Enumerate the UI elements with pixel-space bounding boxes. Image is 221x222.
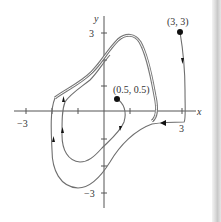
point-label-3-3: (3, 3) (167, 16, 189, 28)
x-axis-label: x (196, 106, 202, 117)
phase-portrait-figure: y x 3 −3 −3 3 (3, 3) (0.5, 0.5) (0, 0, 221, 222)
point-0-5-0-5 (114, 96, 120, 102)
y-axis-label: y (93, 13, 99, 24)
y-tick-label-neg3: −3 (84, 188, 95, 199)
trajectory-from-3-3 (51, 32, 185, 188)
arrow-up-icon (61, 127, 64, 133)
arrow-up-icon (62, 96, 65, 102)
point-label-0-5-0-5: (0.5, 0.5) (113, 84, 150, 96)
x-tick-label-neg3: −3 (17, 118, 28, 129)
arrow-up-icon (52, 136, 55, 142)
x-tick-label-3: 3 (179, 123, 184, 134)
axes (14, 16, 196, 208)
limit-cycle (55, 35, 156, 121)
point-3-3 (177, 29, 183, 35)
y-tick-label-3: 3 (89, 28, 94, 39)
arrow-left-icon (160, 120, 166, 126)
